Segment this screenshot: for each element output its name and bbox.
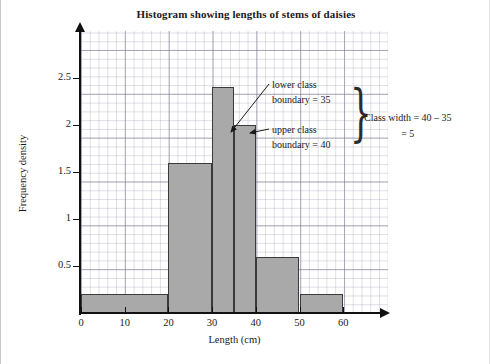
y-axis-tick (73, 125, 81, 126)
y-axis-arrow-icon (75, 22, 85, 32)
annotation-lower-line2: boundary = 35 (272, 92, 330, 107)
y-axis-tick-label: 1.5 (39, 166, 71, 176)
annotation-upper-line2: boundary = 40 (272, 137, 330, 152)
histogram-bar (300, 294, 344, 313)
x-axis-tick-label: 0 (66, 317, 96, 328)
annotation-lower-class-boundary: lower class boundary = 35 (272, 77, 330, 107)
annotation-upper-class-boundary: upper class boundary = 40 (272, 122, 330, 152)
x-axis-tick (256, 307, 257, 314)
x-axis-tick (168, 307, 169, 314)
y-axis-label: Frequency density (17, 109, 28, 239)
annotation-lower-line1: lower class (272, 79, 317, 90)
y-axis-tick-label: 0.5 (39, 260, 71, 270)
y-axis-tick (73, 219, 81, 220)
x-axis-tick (343, 307, 344, 314)
x-axis-tick (300, 307, 301, 314)
x-axis-tick-label: 10 (110, 317, 140, 328)
annotation-upper-line1: upper class (272, 124, 317, 135)
y-axis-tick-label: 1 (39, 213, 71, 223)
x-axis-label: Length (cm) (81, 334, 388, 345)
x-axis-tick-label: 60 (328, 317, 358, 328)
x-axis-tick (81, 307, 82, 314)
annotation-class-width: Class width = 40 – 35 = 5 (364, 110, 452, 142)
histogram-bar (234, 125, 256, 313)
x-axis-tick-label: 50 (285, 317, 315, 328)
histogram-bar (168, 163, 212, 313)
histogram-figure: Histogram showing lengths of stems of da… (0, 0, 490, 364)
histogram-bar (256, 257, 300, 313)
x-axis-tick (125, 307, 126, 314)
y-axis-tick (73, 78, 81, 79)
y-axis-tick (73, 266, 81, 267)
x-axis-arrow-icon (380, 308, 390, 318)
x-axis-tick (212, 307, 213, 314)
x-axis-tick-label: 30 (197, 317, 227, 328)
y-axis-tick-label: 2.5 (39, 72, 71, 82)
y-axis-tick-label: 2 (39, 119, 71, 129)
histogram-bar (212, 87, 234, 313)
page-title: Histogram showing lengths of stems of da… (1, 8, 490, 20)
x-axis-tick-label: 20 (153, 317, 183, 328)
y-axis-tick (73, 172, 81, 173)
annotation-class-width-line2: = 5 (364, 126, 452, 142)
plot-area-gridpaper (81, 31, 388, 313)
annotation-class-width-line1: Class width = 40 – 35 (364, 112, 452, 123)
x-axis-tick-label: 40 (241, 317, 271, 328)
